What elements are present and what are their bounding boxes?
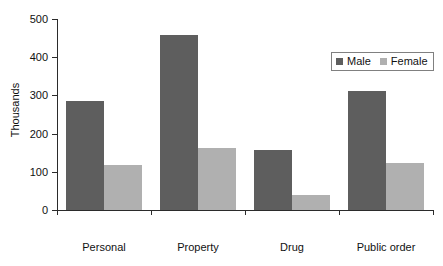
y-axis-title: Thousands [9,65,21,155]
y-tick-label: 500 [20,14,48,25]
bar-drug-female [292,195,330,210]
plot-area [57,19,433,210]
y-tick-label: 400 [20,52,48,63]
bar-drug-male [254,150,292,210]
bar-personal-male [66,101,104,210]
y-tick-label: 0 [20,205,48,216]
bar-property-male [160,35,198,210]
bottom-crop-artifact [0,258,443,266]
x-tick [57,210,58,215]
legend-entry-male: Male [336,56,371,67]
x-category-label: Public order [339,241,433,253]
legend-label-male: Male [347,56,371,67]
legend-swatch-female-icon [380,58,387,65]
x-tick [339,210,340,215]
y-tick-label: 300 [20,90,48,101]
x-category-label: Drug [245,241,339,253]
x-tick [151,210,152,215]
y-tick-label: 100 [20,167,48,178]
legend-swatch-male-icon [336,58,343,65]
y-tick-label: 200 [20,129,48,140]
x-tick [245,210,246,215]
chart-legend: Male Female [331,52,434,71]
x-category-label: Personal [57,241,151,253]
x-category-label: Property [151,241,245,253]
bar-personal-female [104,165,142,210]
legend-entry-female: Female [380,56,428,67]
bar-chart: Thousands 0100200300400500 PersonalPrope… [0,0,443,266]
legend-label-female: Female [391,56,428,67]
bar-property-female [198,148,236,210]
bar-public-order-male [348,91,386,210]
x-tick [433,210,434,215]
bar-public-order-female [386,163,424,210]
